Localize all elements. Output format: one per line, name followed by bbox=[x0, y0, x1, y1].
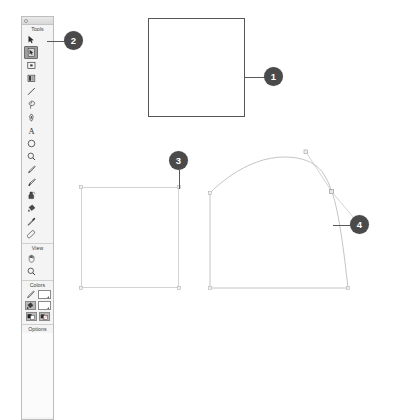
palette-section-view: View bbox=[22, 244, 53, 281]
text-tool[interactable]: A bbox=[24, 124, 38, 137]
transform-box-icon bbox=[27, 61, 36, 70]
callout-badge-1[interactable]: 1 bbox=[264, 67, 283, 86]
tools-grid: A bbox=[22, 33, 53, 241]
pencil-icon bbox=[27, 165, 36, 174]
stroke-color-icon[interactable] bbox=[25, 290, 36, 299]
free-transform-tool[interactable] bbox=[24, 59, 38, 72]
paint-bucket-tool[interactable] bbox=[24, 202, 38, 215]
no-color-swatch-icon bbox=[40, 313, 48, 320]
hollow-arrow-page-icon bbox=[27, 48, 36, 57]
section-label-options: Options bbox=[22, 325, 53, 333]
pencil-tool[interactable] bbox=[24, 163, 38, 176]
magnifier-icon bbox=[27, 152, 36, 161]
subselection-tool[interactable] bbox=[24, 46, 38, 59]
diagonal-line-icon bbox=[27, 87, 36, 96]
eraser-tool[interactable] bbox=[24, 228, 38, 241]
hand-icon bbox=[27, 254, 36, 263]
palette-section-options: Options bbox=[22, 325, 53, 419]
gradient-transform-tool[interactable] bbox=[24, 72, 38, 85]
line-tool[interactable] bbox=[24, 85, 38, 98]
callout-4-leader bbox=[333, 225, 351, 226]
eyedropper-icon bbox=[27, 217, 36, 226]
stroke-color-row bbox=[22, 289, 53, 300]
callout-1-leader bbox=[245, 77, 265, 78]
callout-badge-3[interactable]: 3 bbox=[169, 151, 188, 170]
black-white-swatch-icon bbox=[27, 313, 35, 320]
paintbrush-icon bbox=[27, 178, 36, 187]
fill-color-swatch[interactable] bbox=[38, 301, 51, 310]
view-grid bbox=[22, 252, 53, 278]
magnifier-icon bbox=[27, 267, 36, 276]
circle-outline-icon bbox=[27, 139, 36, 148]
selection-arrow-tool[interactable] bbox=[24, 33, 38, 46]
stroke-color-swatch[interactable] bbox=[38, 290, 51, 299]
pencil-stroke-icon bbox=[26, 290, 35, 299]
svg-text:A: A bbox=[28, 127, 34, 136]
selected-square-anchors bbox=[76, 182, 186, 294]
paint-bucket-fill-icon bbox=[26, 302, 34, 310]
no-color-swatch-button[interactable] bbox=[39, 312, 50, 321]
fill-color-icon[interactable] bbox=[25, 301, 36, 310]
section-label-colors: Colors bbox=[22, 281, 53, 289]
lasso-icon bbox=[27, 100, 36, 109]
callout-3-leader bbox=[179, 170, 180, 189]
magnifier-tool[interactable] bbox=[24, 150, 38, 163]
section-label-view: View bbox=[22, 244, 53, 252]
callout-badge-4[interactable]: 4 bbox=[350, 215, 369, 234]
pen-nib-icon bbox=[27, 113, 36, 122]
callout-2-leader bbox=[47, 41, 65, 42]
bezier-deformed-square-shape[interactable] bbox=[208, 148, 368, 298]
section-label-tools: Tools bbox=[22, 25, 53, 33]
zoom-tool[interactable] bbox=[24, 265, 38, 278]
palette-section-tools: Tools bbox=[22, 25, 53, 244]
eyedropper-tool[interactable] bbox=[24, 215, 38, 228]
pen-tool[interactable] bbox=[24, 111, 38, 124]
plain-square-shape[interactable] bbox=[148, 18, 245, 117]
callout-badge-2[interactable]: 2 bbox=[64, 31, 83, 50]
paint-bucket-icon bbox=[27, 204, 36, 213]
gradient-box-icon bbox=[27, 74, 36, 83]
ink-bottle-tool[interactable] bbox=[24, 189, 38, 202]
window-dot-icon bbox=[24, 19, 28, 23]
letter-a-icon: A bbox=[27, 126, 36, 135]
lasso-tool[interactable] bbox=[24, 98, 38, 111]
ink-bottle-icon bbox=[27, 191, 36, 200]
brush-tool[interactable] bbox=[24, 176, 38, 189]
eraser-icon bbox=[27, 230, 36, 239]
color-modifier-row bbox=[22, 311, 53, 322]
oval-tool[interactable] bbox=[24, 137, 38, 150]
palette-section-colors: Colors bbox=[22, 281, 53, 325]
tools-palette: Tools bbox=[21, 16, 54, 420]
fill-color-row bbox=[22, 300, 53, 311]
palette-titlebar[interactable] bbox=[22, 17, 53, 25]
arrow-pointer-icon bbox=[27, 35, 36, 44]
hand-tool[interactable] bbox=[24, 252, 38, 265]
options-body bbox=[22, 333, 53, 417]
bezier-path-svg bbox=[208, 148, 368, 298]
black-white-swatch-button[interactable] bbox=[26, 312, 37, 321]
